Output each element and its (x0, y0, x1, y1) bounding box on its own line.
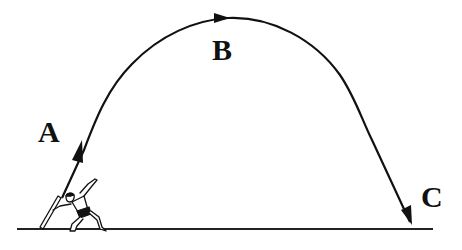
trajectory-path (62, 18, 410, 222)
label-b: B (212, 35, 232, 65)
javelin-thrower-icon (40, 179, 106, 231)
label-a: A (38, 117, 60, 147)
label-c: C (421, 182, 443, 212)
arrow-a-icon (72, 140, 83, 163)
arrow-b-icon (214, 13, 230, 23)
